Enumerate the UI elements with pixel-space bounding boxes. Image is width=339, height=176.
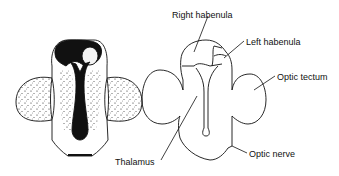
label-optic-tectum: Optic tectum: [277, 72, 328, 82]
label-thalamus: Thalamus: [115, 157, 155, 167]
left-brain-drawing: [16, 40, 142, 156]
left-panel-left-tectum: [16, 77, 52, 121]
right-panel-left-tectum: [142, 70, 183, 124]
right-panel-right-habenula: [182, 64, 222, 66]
leader-thalamus: [161, 96, 197, 160]
right-panel-ventricle: [196, 66, 218, 136]
left-panel-right-tectum: [107, 77, 142, 121]
leader-left-habenula: [224, 41, 244, 58]
right-panel-right-tectum: [232, 74, 266, 124]
leader-optic-nerve: [232, 146, 247, 153]
right-brain-drawing: [142, 40, 266, 160]
right-panel-body: [179, 116, 233, 160]
leader-right-habenula: [194, 16, 208, 52]
diagram-stage: Right habenula Left habenula Optic tectu…: [0, 0, 339, 176]
label-optic-nerve: Optic nerve: [249, 149, 295, 159]
label-right-habenula: Right habenula: [172, 10, 233, 20]
label-left-habenula: Left habenula: [246, 37, 301, 47]
